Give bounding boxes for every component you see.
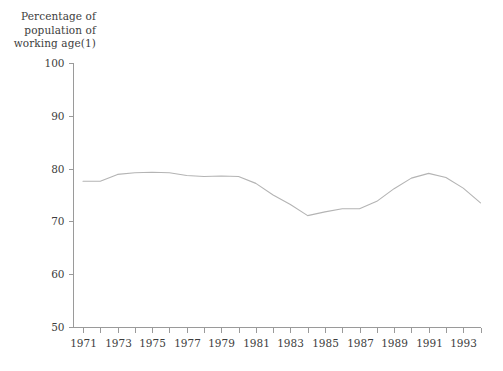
x-tick-label: 1991 xyxy=(416,337,443,349)
x-tick-label: 1985 xyxy=(312,337,339,349)
x-tick-label: 1971 xyxy=(70,337,97,349)
x-tick-label: 1987 xyxy=(347,337,374,349)
y-tick-label: 100 xyxy=(44,57,64,69)
x-tick-label: 1977 xyxy=(174,337,201,349)
chart-container: Percentage of population of working age(… xyxy=(0,0,503,371)
chart-axes xyxy=(74,63,482,328)
y-tick-label: 70 xyxy=(51,215,64,227)
x-tick-label: 1981 xyxy=(243,337,270,349)
series-line-working-age xyxy=(83,172,481,215)
x-tick-label: 1989 xyxy=(381,337,408,349)
x-tick-label: 1993 xyxy=(450,337,477,349)
chart-series xyxy=(83,172,481,215)
x-tick-label: 1975 xyxy=(139,337,166,349)
x-tick-label: 1979 xyxy=(208,337,235,349)
y-tick-label: 90 xyxy=(51,110,64,122)
x-axis-ticks: 1971197319751977197919811983198519871989… xyxy=(70,328,481,349)
y-tick-label: 60 xyxy=(51,268,64,280)
y-tick-label: 80 xyxy=(51,163,64,175)
chart-plot-area: 5060708090100 19711973197519771979198119… xyxy=(0,0,503,371)
y-axis-ticks: 5060708090100 xyxy=(44,57,73,333)
y-tick-label: 50 xyxy=(51,321,64,333)
x-tick-label: 1983 xyxy=(277,337,304,349)
x-tick-label: 1973 xyxy=(105,337,132,349)
